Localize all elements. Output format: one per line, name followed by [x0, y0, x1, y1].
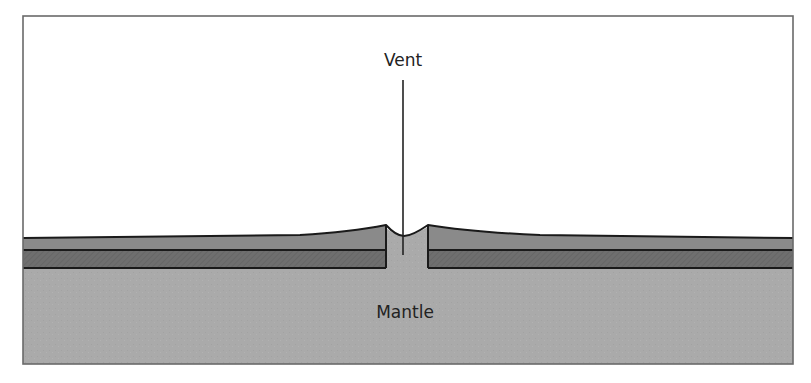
lower-layer-left [23, 250, 386, 268]
vent-label: Vent [384, 50, 422, 70]
ridge-vent-diagram: Vent Mantle [0, 0, 811, 383]
mantle-label: Mantle [376, 302, 434, 322]
lower-layer-right [428, 250, 793, 268]
